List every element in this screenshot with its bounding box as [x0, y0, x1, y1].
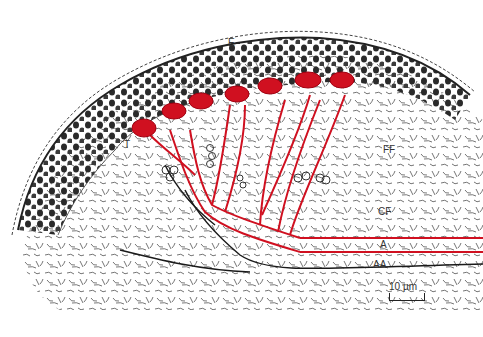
- label-t: T: [124, 140, 130, 150]
- label-aa: AA: [373, 260, 386, 270]
- scale-bar-label: 10 µm: [389, 282, 417, 292]
- scale-bar: [389, 293, 425, 301]
- label-a: A: [380, 240, 387, 250]
- label-cf: CF: [378, 207, 391, 217]
- label-epithelium: E: [228, 38, 235, 48]
- label-ff: FF: [383, 145, 395, 155]
